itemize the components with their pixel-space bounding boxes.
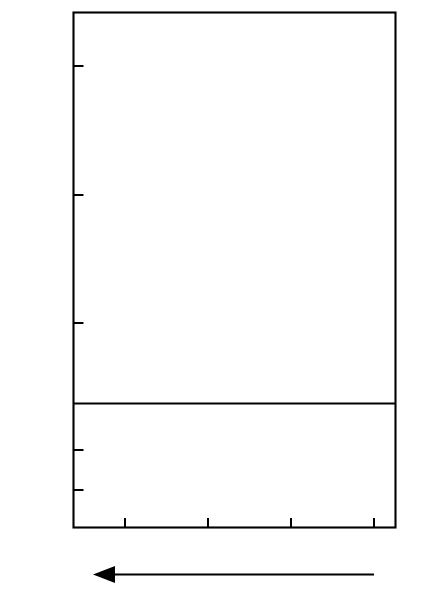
- chart-figure: [0, 0, 424, 594]
- chart-svg: [0, 0, 424, 594]
- figure-background: [0, 0, 424, 594]
